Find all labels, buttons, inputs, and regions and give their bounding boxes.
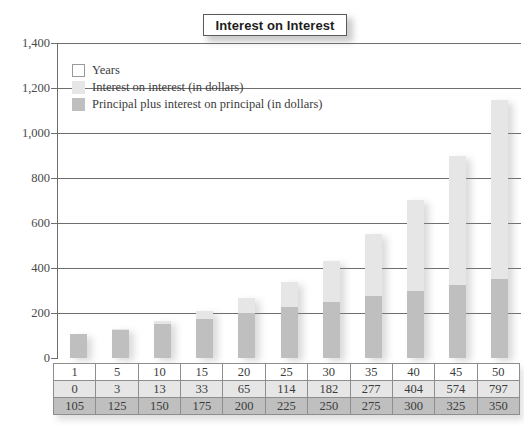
bar-segment-principal-40: [407, 291, 424, 359]
y-axis-label-0: 0: [2, 351, 50, 366]
table-cell-principal-plus-interest-7: 275: [350, 398, 392, 415]
table-cell-principal-plus-interest-10: 350: [477, 398, 519, 415]
bar-year-40[interactable]: [407, 200, 424, 358]
table-cell-years-9: 45: [435, 364, 477, 381]
y-tick-800: [51, 178, 57, 179]
table-row-years: 15101520253035404550: [54, 364, 520, 381]
bar-year-50[interactable]: [491, 100, 508, 358]
table-cell-interest-on-interest-8: 404: [392, 381, 434, 398]
table-cell-principal-plus-interest-0: 105: [54, 398, 96, 415]
y-tick-1000: [51, 133, 57, 134]
bar-year-20[interactable]: [238, 298, 255, 358]
bar-segment-principal-50: [491, 279, 508, 358]
legend-swatch-years-icon: [72, 64, 85, 77]
legend-item-interest-on-interest: Interest on interest (in dollars): [72, 79, 323, 95]
bar-year-35[interactable]: [365, 234, 382, 358]
y-tick-1200: [51, 88, 57, 89]
table-cell-interest-on-interest-2: 13: [138, 381, 180, 398]
table-cell-interest-on-interest-4: 65: [223, 381, 265, 398]
table-cell-years-8: 40: [392, 364, 434, 381]
y-tick-400: [51, 268, 57, 269]
table-cell-interest-on-interest-1: 3: [96, 381, 138, 398]
table-cell-interest-on-interest-3: 33: [181, 381, 223, 398]
bar-year-30[interactable]: [323, 261, 340, 358]
y-axis-label-600: 600: [2, 216, 50, 231]
table-cell-principal-plus-interest-4: 200: [223, 398, 265, 415]
legend-label-years: Years: [92, 63, 120, 78]
y-tick-0: [51, 358, 57, 359]
bar-segment-interest-40: [407, 200, 424, 291]
y-axis-label-400: 400: [2, 261, 50, 276]
bar-year-25[interactable]: [281, 282, 298, 358]
bar-segment-interest-30: [323, 261, 340, 302]
bar-year-15[interactable]: [196, 311, 213, 358]
bar-segment-principal-1: [70, 334, 87, 358]
table-cell-interest-on-interest-7: 277: [350, 381, 392, 398]
table-cell-interest-on-interest-5: 114: [265, 381, 307, 398]
bar-segment-principal-45: [449, 285, 466, 358]
bar-segment-interest-50: [491, 100, 508, 279]
table-cell-principal-plus-interest-8: 300: [392, 398, 434, 415]
table-cell-principal-plus-interest-5: 225: [265, 398, 307, 415]
y-tick-1400: [51, 43, 57, 44]
y-axis-label-1400: 1,400: [2, 36, 50, 51]
legend-swatch-principal-icon: [72, 98, 85, 111]
table-cell-years-2: 10: [138, 364, 180, 381]
table-cell-years-4: 20: [223, 364, 265, 381]
data-table-body: 15101520253035404550 0313336511418227740…: [54, 364, 520, 415]
y-tick-200: [51, 313, 57, 314]
table-cell-principal-plus-interest-1: 125: [96, 398, 138, 415]
table-cell-years-10: 50: [477, 364, 519, 381]
legend-swatch-interest-icon: [72, 81, 85, 94]
bar-segment-interest-45: [449, 156, 466, 285]
table-cell-principal-plus-interest-2: 150: [138, 398, 180, 415]
table-cell-years-6: 30: [308, 364, 350, 381]
bar-year-1[interactable]: [70, 334, 87, 358]
chart-legend: Years Interest on interest (in dollars) …: [72, 62, 323, 113]
legend-label-principal: Principal plus interest on principal (in…: [92, 97, 323, 112]
y-tick-600: [51, 223, 57, 224]
bar-segment-interest-35: [365, 234, 382, 296]
table-cell-principal-plus-interest-3: 175: [181, 398, 223, 415]
table-cell-interest-on-interest-9: 574: [435, 381, 477, 398]
bar-segment-principal-35: [365, 296, 382, 358]
table-cell-interest-on-interest-10: 797: [477, 381, 519, 398]
bar-year-10[interactable]: [154, 321, 171, 358]
table-cell-interest-on-interest-0: 0: [54, 381, 96, 398]
legend-item-years: Years: [72, 62, 323, 78]
table-cell-years-7: 35: [350, 364, 392, 381]
y-axis-labels: 02004006008001,0001,2001,400: [0, 0, 50, 442]
table-cell-principal-plus-interest-6: 250: [308, 398, 350, 415]
table-cell-years-5: 25: [265, 364, 307, 381]
bar-segment-interest-5: [112, 329, 129, 330]
bar-segment-principal-15: [196, 319, 213, 358]
table-row-principal-plus-interest: 105125150175200225250275300325350: [54, 398, 520, 415]
data-table: 15101520253035404550 0313336511418227740…: [53, 363, 520, 415]
table-cell-years-1: 5: [96, 364, 138, 381]
interest-on-interest-chart: Interest on Interest 02004006008001,0001…: [0, 0, 524, 442]
chart-title: Interest on Interest: [203, 14, 347, 36]
bar-segment-principal-20: [238, 313, 255, 358]
bar-segment-principal-30: [323, 302, 340, 358]
table-cell-years-3: 15: [181, 364, 223, 381]
bar-segment-principal-10: [154, 324, 171, 358]
bar-segment-interest-20: [238, 298, 255, 313]
y-axis-label-800: 800: [2, 171, 50, 186]
bar-segment-principal-25: [281, 307, 298, 358]
table-row-interest-on-interest: 03133365114182277404574797: [54, 381, 520, 398]
bar-segment-principal-5: [112, 330, 129, 358]
y-axis-label-1000: 1,000: [2, 126, 50, 141]
legend-item-principal: Principal plus interest on principal (in…: [72, 96, 323, 112]
bar-segment-interest-10: [154, 321, 171, 324]
table-cell-interest-on-interest-6: 182: [308, 381, 350, 398]
bar-segment-interest-25: [281, 282, 298, 308]
y-axis-label-200: 200: [2, 306, 50, 321]
bar-year-45[interactable]: [449, 156, 466, 358]
table-cell-years-0: 1: [54, 364, 96, 381]
y-axis-label-1200: 1,200: [2, 81, 50, 96]
bar-year-5[interactable]: [112, 329, 129, 358]
legend-label-interest-on-interest: Interest on interest (in dollars): [92, 80, 243, 95]
table-cell-principal-plus-interest-9: 325: [435, 398, 477, 415]
bar-segment-interest-15: [196, 311, 213, 318]
